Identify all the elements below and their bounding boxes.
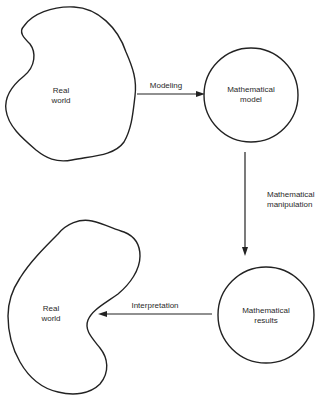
real-world-blob-bottom bbox=[8, 220, 140, 394]
diagram-canvas: Real world Modeling Mathematical model M… bbox=[0, 0, 324, 400]
edge-label: manipulation bbox=[267, 200, 312, 209]
edge-label: Interpretation bbox=[131, 301, 178, 310]
node-label-line: model bbox=[240, 95, 262, 104]
node-mathematical-results: Mathematical results bbox=[218, 267, 314, 363]
node-label-line: Mathematical bbox=[227, 85, 275, 94]
node-label-line: world bbox=[40, 314, 60, 323]
results-circle bbox=[218, 267, 314, 363]
edge-label: Modeling bbox=[150, 81, 182, 90]
node-real-world-bottom: Real world bbox=[8, 220, 140, 394]
node-label-line: world bbox=[50, 96, 70, 105]
node-label-line: results bbox=[254, 316, 278, 325]
node-real-world-top: Real world bbox=[6, 7, 136, 161]
real-world-blob-top bbox=[6, 7, 136, 161]
arrowhead-left-icon bbox=[98, 311, 107, 317]
node-label-line: Real bbox=[53, 86, 70, 95]
node-mathematical-model: Mathematical model bbox=[204, 48, 298, 142]
edge-label: Mathematical bbox=[267, 190, 315, 199]
edge-interpretation: Interpretation bbox=[98, 301, 212, 317]
edge-manipulation: Mathematical manipulation bbox=[242, 152, 315, 256]
edge-modeling: Modeling bbox=[137, 81, 205, 97]
arrowhead-down-icon bbox=[242, 247, 248, 256]
node-label-line: Real bbox=[43, 304, 60, 313]
node-label-line: Mathematical bbox=[242, 306, 290, 315]
